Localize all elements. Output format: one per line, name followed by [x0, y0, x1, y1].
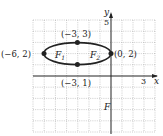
point-label-left: (−6, 2) [1, 49, 31, 59]
y-tick-label: 5 [104, 18, 109, 27]
focus-2-label: F2 [89, 50, 100, 61]
co-vertex-top [75, 40, 80, 45]
x-axis-label: x [154, 76, 159, 86]
point-label-right: (0, 2) [114, 49, 137, 59]
extra-f-label: F [103, 102, 111, 112]
x-tick-label: 3 [141, 77, 146, 86]
y-axis-arrow-icon [109, 12, 113, 18]
point-label-bottom: (−3, 1) [61, 78, 91, 88]
y-axis-label: y [103, 7, 110, 17]
axes [33, 14, 157, 134]
vertex-right [109, 51, 114, 56]
focus-1-label: F1 [54, 50, 65, 61]
co-vertex-bottom [75, 62, 80, 67]
vertex-left [42, 51, 47, 56]
point-label-top: (−3, 3) [61, 29, 91, 39]
ellipse-graph: x y 3 5 (−6, 2) (−3, 3) (0, 2) (−3, 1) F… [0, 0, 163, 136]
